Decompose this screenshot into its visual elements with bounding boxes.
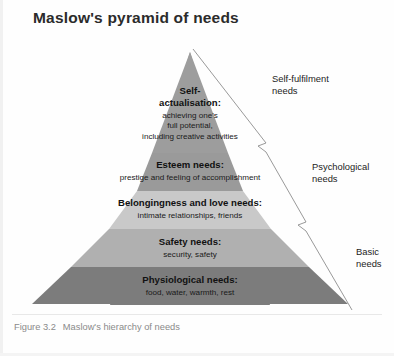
bracket-self-fulfilment-label-line2: needs — [272, 85, 298, 96]
tier-safety-sub: security, safety — [163, 250, 217, 259]
figure-container: Maslow's pyramid of needs Self- actualis… — [0, 0, 394, 356]
figure-caption-text: Maslow's hierarchy of needs — [63, 322, 180, 332]
tier-physiological-sub: food, water, warmth, rest — [146, 288, 235, 297]
tier-physiological-title: Physiological needs: — [142, 274, 237, 285]
caption-divider — [12, 314, 382, 315]
figure-caption-number: Figure 3.2 — [14, 322, 56, 332]
bracket-psychological-label-line1: Psychological — [312, 161, 369, 172]
tier-belongingness-title: Belongingness and love needs: — [118, 197, 262, 208]
bracket-self-fulfilment-label-line1: Self-fulfilment — [272, 73, 329, 84]
tier-self-actualisation-title-line1: Self- — [180, 85, 201, 96]
tier-esteem-title: Esteem needs: — [156, 159, 224, 170]
tier-self-actualisation-sub-line3: including creative activities — [142, 132, 238, 141]
tier-self-actualisation-sub-line2: full potential, — [167, 121, 212, 130]
pyramid-shape-tier4 — [71, 229, 309, 267]
tier-esteem-sub: prestige and feeling of accomplishment — [120, 173, 261, 182]
figure-caption: Figure 3.2Maslow's hierarchy of needs — [14, 322, 180, 332]
tier-self-actualisation-sub-line1: achieving one's — [162, 111, 218, 120]
pyramid-shape-tier5 — [32, 267, 348, 304]
bracket-basic-label-line2: needs — [356, 258, 382, 269]
bracket-psychological-line — [266, 152, 306, 231]
tier-belongingness-sub: intimate relationships, friends — [138, 211, 243, 220]
tier-self-actualisation-title-line2: actualisation: — [159, 97, 221, 108]
bracket-basic-label-line1: Basic — [356, 246, 379, 257]
tier-safety-title: Safety needs: — [159, 236, 221, 247]
bracket-psychological-label-line2: needs — [312, 173, 338, 184]
maslow-pyramid-diagram: Self- actualisation: achieving one's ful… — [0, 0, 394, 314]
